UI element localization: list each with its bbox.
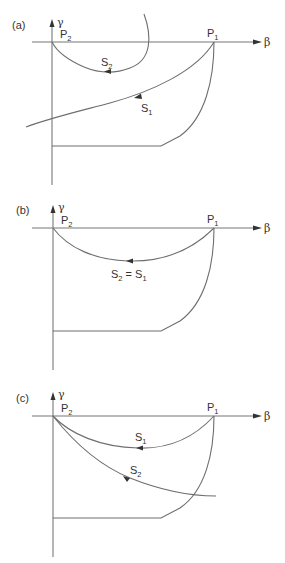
gamma-axis-arrowhead-icon [51,205,56,213]
gamma-axis-label: γ [58,201,65,214]
curve-s1 [26,42,214,127]
curve-s1-label: S1 [141,102,153,117]
point-p1-label: P1 [207,213,219,228]
point-p2-label: P2 [61,402,73,417]
curve-s2-equals-s1 [53,228,214,261]
point-p2-label: P2 [60,28,72,43]
gamma-axis-arrowhead-icon [51,392,56,400]
figure: (a) γ β P2 P1 S2 S1 (b) γ β P2 P1 [0,0,285,563]
beta-axis-arrowhead-icon [253,40,262,45]
beta-axis-arrowhead-icon [253,414,262,419]
curve-s2-label: S2 [130,464,142,479]
beta-axis-label: β [264,410,270,423]
point-p1-label: P1 [207,401,219,416]
s1-direction-arrow-icon [136,446,143,451]
beta-axis-label: β [264,222,270,235]
panel-a: (a) γ β P2 P1 S2 S1 [12,14,270,185]
gamma-axis-arrowhead-icon [50,19,55,27]
beta-axis-label: β [264,36,270,49]
curve-s2-equals-s1-label: S2 = S1 [111,268,147,283]
point-p1-label: P1 [207,27,219,42]
panel-c: (c) γ β P2 P1 S1 S2 [16,388,270,557]
panel-label: (b) [16,204,29,216]
curve-direction-arrow-icon [126,259,133,264]
curve-s2-label: S2 [101,56,113,71]
panel-label: (c) [16,392,29,404]
point-p2-label: P2 [61,214,73,229]
panel-b: (b) γ β P2 P1 S2 = S1 [16,201,270,370]
region-boundary [52,42,214,146]
gamma-axis-label: γ [58,388,65,401]
beta-axis-arrowhead-icon [253,226,262,231]
diagram-canvas: (a) γ β P2 P1 S2 S1 (b) γ β P2 P1 [0,0,285,563]
curve-s2 [53,416,216,496]
curve-s1-label: S1 [135,431,147,446]
panel-label: (a) [12,19,25,31]
